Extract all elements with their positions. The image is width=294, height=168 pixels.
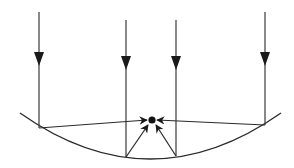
concave-mirror-diagram: Parallel rays reflecting off a concave (…	[0, 0, 294, 168]
arrow-down-icon	[121, 56, 131, 70]
incident-ray-1	[34, 12, 44, 128]
incident-ray-3	[171, 20, 181, 156]
arrow-down-icon	[34, 52, 44, 66]
focal-point	[148, 116, 155, 123]
incident-ray-2	[121, 20, 131, 157]
reflected-ray-1	[39, 120, 147, 128]
reflected-ray-2	[126, 125, 148, 157]
reflected-ray-3	[156, 125, 176, 156]
reflected-ray-4	[157, 120, 265, 125]
diagram-svg	[0, 0, 294, 168]
incident-ray-4	[260, 12, 270, 125]
arrow-down-icon	[171, 56, 181, 70]
arrow-down-icon	[260, 52, 270, 66]
